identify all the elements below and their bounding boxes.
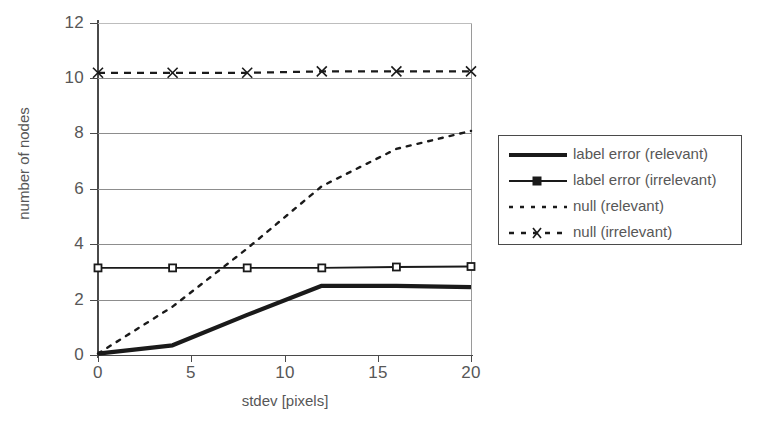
- y-tick-4: [90, 244, 98, 245]
- x-tick-20: [471, 355, 472, 362]
- y-tick-label-6: 6: [44, 179, 84, 199]
- x-tick-label-20: 20: [451, 363, 491, 383]
- legend-label-2: null (relevant): [573, 197, 664, 214]
- x-axis-title: stdev [pixels]: [185, 392, 385, 409]
- x-tick-label-15: 15: [358, 363, 398, 383]
- legend-item-label-error-relevant[interactable]: label error (relevant): [507, 144, 737, 166]
- series-null-relevant-line: [98, 131, 471, 354]
- legend-item-null-relevant[interactable]: null (relevant): [507, 196, 737, 218]
- x-tick-label-10: 10: [265, 363, 305, 383]
- gridline-8: [98, 133, 472, 134]
- legend-label-3: null (irrelevant): [573, 223, 672, 240]
- legend-sample-dotted-line: [507, 196, 569, 218]
- series-label-error-irrelevant-line: [98, 267, 471, 268]
- legend: label error (relevant) label error (irre…: [498, 135, 742, 245]
- legend-item-label-error-irrelevant[interactable]: label error (irrelevant): [507, 170, 737, 192]
- series-null-irrelevant-line: [98, 71, 471, 72]
- legend-sample-dashed-line-x-marker: [507, 222, 569, 244]
- x-tick-label-5: 5: [171, 363, 211, 383]
- series-label-error-irrelevant-markers: [95, 263, 475, 271]
- x-tick-0: [98, 355, 99, 362]
- gridline-4: [98, 244, 472, 245]
- y-tick-6: [90, 189, 98, 190]
- legend-label-1: label error (irrelevant): [573, 171, 716, 188]
- gridline-2: [98, 300, 472, 301]
- x-tick-15: [378, 355, 379, 362]
- series-label-error-relevant-line: [98, 286, 471, 354]
- y-tick-2: [90, 300, 98, 301]
- y-axis-title: number of nodes: [15, 79, 32, 249]
- y-tick-0: [90, 355, 98, 356]
- chart-figure: 12 10 8 6 4 2 0 0 5 10 15 20 number of n…: [0, 0, 762, 439]
- y-tick-label-4: 4: [44, 234, 84, 254]
- legend-sample-solid-line-square-marker: [507, 170, 569, 192]
- gridline-10: [98, 78, 472, 79]
- legend-sample-solid-thick-line: [507, 144, 569, 166]
- gridline-6: [98, 189, 472, 190]
- x-tick-label-0: 0: [78, 363, 118, 383]
- y-tick-10: [90, 78, 98, 79]
- x-tick-10: [285, 355, 286, 362]
- y-tick-label-8: 8: [44, 123, 84, 143]
- series-null-irrelevant-markers: [93, 66, 476, 77]
- y-tick-12: [90, 23, 98, 24]
- legend-item-null-irrelevant[interactable]: null (irrelevant): [507, 222, 737, 244]
- plot-top-border: [98, 23, 472, 24]
- legend-label-0: label error (relevant): [573, 145, 708, 162]
- y-tick-label-12: 12: [44, 13, 84, 33]
- y-tick-8: [90, 133, 98, 134]
- x-tick-5: [191, 355, 192, 362]
- y-tick-label-10: 10: [44, 68, 84, 88]
- y-tick-label-2: 2: [44, 290, 84, 310]
- y-tick-label-0: 0: [44, 345, 84, 365]
